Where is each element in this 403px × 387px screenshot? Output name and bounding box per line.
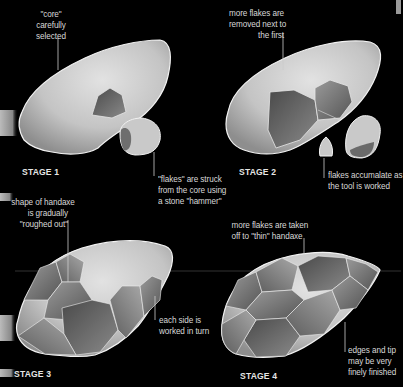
annotation-line: is gradually: [11, 207, 68, 218]
annotation-line: "core": [24, 8, 77, 19]
annotation-more-flakes-removed: more flakes are removed next to the firs…: [229, 7, 284, 40]
page-edge-tabs: [0, 110, 18, 377]
annotation-line: shape of handaxe: [11, 196, 68, 207]
stage-4-title: STAGE 4: [240, 370, 277, 381]
stage-2-title: STAGE 2: [239, 166, 276, 177]
annotation-flakes-struck: "flakes" are struck from the core using …: [158, 173, 226, 206]
annotation-core-selected: "core" carefully selected: [24, 8, 77, 41]
stage-3-title: STAGE 3: [14, 368, 51, 379]
annotation-line: more flakes are: [229, 7, 284, 18]
annotation-line: each side is: [159, 314, 209, 325]
annotation-line: carefully: [24, 19, 77, 30]
annotation-line: more flakes are taken: [231, 219, 302, 230]
stage-1-title: STAGE 1: [22, 166, 59, 177]
annotation-thin-handaxe: more flakes are taken off to "thin" hand…: [231, 219, 302, 241]
annotation-line: flakes accumalate as: [328, 169, 403, 180]
annotation-line: off to "thin" handaxe: [231, 230, 302, 241]
annotation-line: finely finished: [348, 366, 396, 377]
annotation-line: "roughed out": [11, 218, 68, 229]
annotation-line: edges and tip: [348, 344, 396, 355]
stage-4-handaxe: [222, 238, 380, 357]
annotation-line: the first: [229, 29, 284, 40]
stage-2-core: [226, 33, 381, 178]
annotation-edges-finished: edges and tip may be very finely finishe…: [348, 344, 396, 377]
annotation-flakes-accumulate: flakes accumalate as the tool is worked: [328, 169, 403, 191]
annotation-line: "flakes" are struck: [158, 173, 226, 184]
annotation-line: from the core using: [158, 184, 226, 195]
page-edge-mark: [396, 0, 401, 14]
annotation-each-side-worked: each side is worked in turn: [159, 314, 209, 336]
annotation-line: selected: [24, 30, 77, 41]
stage-1-core: [19, 38, 173, 176]
annotation-line: may be very: [348, 355, 396, 366]
annotation-line: removed next to: [229, 18, 284, 29]
annotation-line: a stone "hammer": [158, 195, 226, 206]
annotation-shape-roughed-out: shape of handaxe is gradually "roughed o…: [11, 196, 68, 229]
annotation-line: the tool is worked: [328, 180, 403, 191]
stage-3-handaxe: [17, 220, 173, 357]
annotation-line: worked in turn: [159, 325, 209, 336]
